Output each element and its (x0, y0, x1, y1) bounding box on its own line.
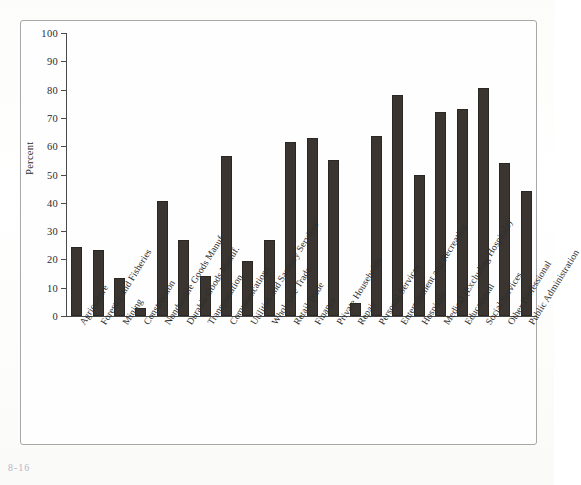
y-tick-label: 30 (47, 226, 58, 237)
y-axis-label: Percent (24, 141, 35, 175)
y-tick-label: 40 (47, 197, 58, 208)
bar (71, 247, 82, 316)
y-tick-label: 50 (47, 169, 58, 180)
y-tick-label: 100 (41, 28, 58, 39)
bar (328, 160, 339, 316)
bar (435, 112, 446, 316)
y-tick-label: 10 (47, 282, 58, 293)
y-tick-label: 20 (47, 254, 58, 265)
y-tick-label: 90 (47, 56, 58, 67)
y-tick-label: 60 (47, 141, 58, 152)
bar (371, 136, 382, 316)
figure-number: 8-16 (8, 462, 30, 473)
y-tick-label: 80 (47, 84, 58, 95)
y-tick-label: 0 (52, 311, 58, 322)
y-tick-label: 70 (47, 112, 58, 123)
